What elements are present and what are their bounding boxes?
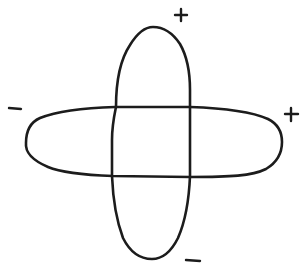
minus-sign-left-icon <box>9 108 21 109</box>
minus-sign-bottom-icon <box>186 260 200 261</box>
horizontal-lobe-pair <box>26 107 282 177</box>
vertical-lobe-pair <box>112 27 190 259</box>
orbital-diagram <box>0 0 303 269</box>
plus-sign-right-icon <box>285 108 298 121</box>
diagram-svg <box>0 0 303 269</box>
plus-sign-top-icon <box>175 9 187 21</box>
